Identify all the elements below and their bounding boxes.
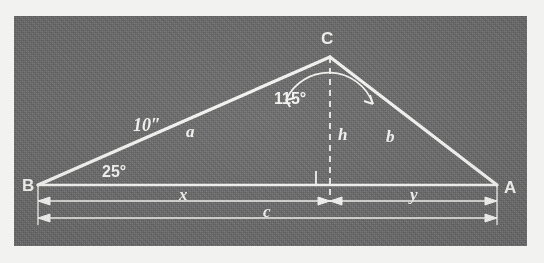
angle-c-label: 115° xyxy=(274,90,306,107)
altitude-label: h xyxy=(338,125,347,144)
dimension-x-arrow-right xyxy=(318,197,330,205)
side-a-length-label: 10″ xyxy=(133,115,161,135)
dimension-c-arrow-right xyxy=(485,214,497,222)
dimension-y-arrow-right xyxy=(485,197,497,205)
dimension-x-arrow-left xyxy=(38,197,50,205)
figure-stage: B A C 10″ a b 25° 115° h x y c xyxy=(0,0,544,263)
vertex-label-A: A xyxy=(504,178,516,197)
vertex-label-C: C xyxy=(321,29,333,48)
side-a-label: a xyxy=(186,122,195,141)
triangle-diagram-svg: B A C 10″ a b 25° 115° h x y c xyxy=(14,16,527,246)
angle-b-label: 25° xyxy=(102,163,126,180)
side-b-label: b xyxy=(386,127,395,146)
dimension-x-label: x xyxy=(178,185,188,204)
dimension-c-arrow-left xyxy=(38,214,50,222)
vertex-label-B: B xyxy=(22,176,34,195)
dimension-y-label: y xyxy=(408,185,418,204)
side-b-line xyxy=(330,57,497,185)
figure-panel: B A C 10″ a b 25° 115° h x y c xyxy=(14,16,527,246)
right-angle-marker xyxy=(316,171,330,185)
dimension-c-label: c xyxy=(263,202,271,221)
side-a-line xyxy=(38,57,330,185)
dimension-y-arrow-left xyxy=(330,197,342,205)
